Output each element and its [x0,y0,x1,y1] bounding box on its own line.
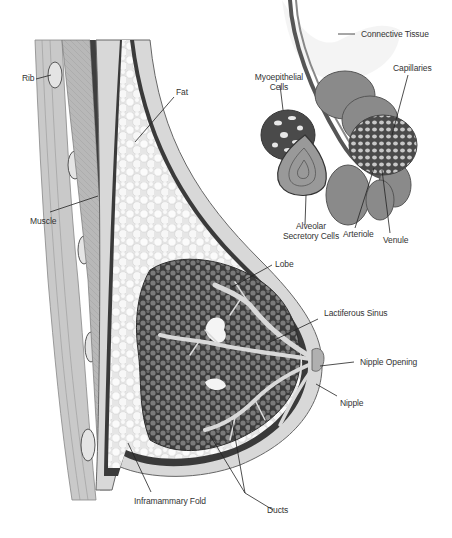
label-lobe: Lobe [275,259,294,269]
label-myoepithelial-line2: Cells [252,82,306,92]
label-myoepithelial-cells: Myoepithelial Cells [252,72,306,92]
label-myoepithelial-line1: Myoepithelial [252,72,306,82]
label-inframammary-fold: Inframammary Fold [134,496,206,506]
label-ducts: Ducts [267,505,288,515]
label-arteriole: Arteriole [343,229,374,239]
label-capillaries: Capillaries [393,63,432,73]
label-nipple-opening: Nipple Opening [360,357,417,367]
label-muscle: Muscle [30,216,56,226]
breast-anatomy-diagram: Rib Fat Muscle Lobe Lactiferous Sinus Ni… [0,0,452,538]
label-nipple: Nipple [340,398,364,408]
label-rib: Rib [22,73,34,83]
label-fat: Fat [176,87,188,97]
label-connective-tissue: Connective Tissue [361,29,429,39]
label-alveolar-secretory-cells: Alveolar Secretory Cells [276,221,346,241]
label-alveolar-line2: Secretory Cells [276,231,346,241]
label-alveolar-line1: Alveolar [276,221,346,231]
illustration [0,0,452,538]
label-lactiferous-sinus: Lactiferous Sinus [324,308,388,318]
label-venule: Venule [383,235,408,245]
